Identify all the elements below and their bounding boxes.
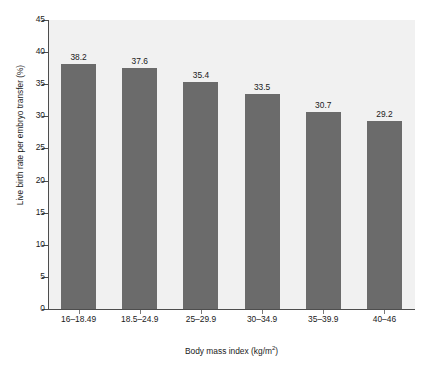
y-axis-tick-label: 35 [36,78,45,89]
y-axis-tick-label: 45 [36,14,45,25]
bar: 35.4 [183,82,218,309]
x-axis-category-label: 30–34.9 [247,314,277,325]
x-axis-category-label: 25–29.9 [186,314,216,325]
y-axis-title: Live birth rate per embryo transfer (%) [14,0,28,285]
x-axis-line [48,309,415,310]
y-axis-tick-label: 25 [36,142,45,153]
bar: 29.2 [367,121,402,309]
y-axis-tick-label: 0 [40,303,45,314]
x-axis-title-suffix: ) [275,346,278,356]
bar: 38.2 [61,64,96,309]
y-axis-tick-label: 5 [40,271,45,282]
bar-value-label: 33.5 [254,82,270,92]
y-axis-tick-label: 30 [36,110,45,121]
y-axis-tick-label: 15 [36,207,45,218]
y-axis-tick-label: 40 [36,46,45,57]
x-axis-title: Body mass index (kg/m2) [48,345,415,357]
x-axis-category-label: 40–46 [373,314,396,325]
x-axis-category-label: 35–39.9 [308,314,338,325]
bar-value-label: 35.4 [193,70,209,80]
y-axis-tick-label: 20 [36,175,45,186]
x-axis-title-text: Body mass index (kg/m [185,346,272,356]
x-axis-category-label: 18.5–24.9 [121,314,158,325]
bar-value-label: 37.6 [132,56,148,66]
bar: 37.6 [122,68,157,309]
bar-value-label: 30.7 [315,100,331,110]
bar-value-label: 38.2 [70,52,86,62]
bar-value-label: 29.2 [376,109,392,119]
plot-area: 051015202530354045 38.237.635.433.530.72… [48,20,415,310]
y-axis-line [48,20,49,310]
bar: 30.7 [306,112,341,309]
y-axis-tick-label: 10 [36,239,45,250]
bar-chart-figure: Live birth rate per embryo transfer (%) … [0,0,423,374]
x-axis-category-label: 16–18.49 [61,314,96,325]
bar: 33.5 [245,94,280,309]
